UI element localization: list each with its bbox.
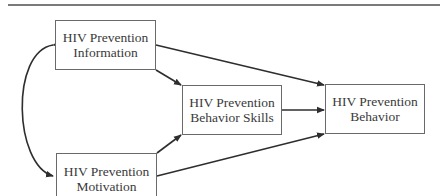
node-motivation-line2: Motivation — [77, 179, 137, 194]
node-information: HIV Prevention Information — [55, 20, 156, 70]
node-information-line2: Information — [73, 45, 137, 60]
edge-motivation-behavior — [157, 134, 324, 176]
node-skills: HIV Prevention Behavior Skills — [182, 85, 282, 135]
node-behavior: HIV Prevention Behavior — [325, 84, 425, 134]
node-skills-line1: HIV Prevention — [189, 95, 275, 110]
edge-information-motivation — [22, 45, 53, 176]
edge-information-behavior — [156, 45, 324, 85]
node-behavior-line1: HIV Prevention — [332, 94, 418, 109]
node-motivation-line1: HIV Prevention — [64, 164, 150, 179]
edge-information-skills — [156, 70, 181, 85]
node-behavior-line2: Behavior — [350, 109, 400, 124]
node-motivation: HIV Prevention Motivation — [56, 153, 157, 196]
node-skills-line2: Behavior Skills — [190, 110, 274, 125]
edge-motivation-skills — [157, 135, 181, 153]
node-information-line1: HIV Prevention — [63, 30, 149, 45]
